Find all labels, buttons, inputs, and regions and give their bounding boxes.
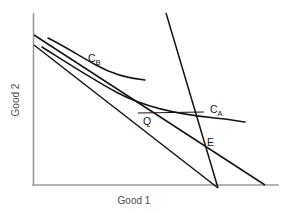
label-point-q: Q xyxy=(143,115,151,127)
figure-root: CB CA Q E Good 1 Good 2 xyxy=(0,0,288,213)
label-point-e: E xyxy=(207,136,214,148)
budget-line-second xyxy=(34,45,218,188)
indifference-curve-diagram: CB CA Q E Good 1 Good 2 xyxy=(0,0,288,213)
y-axis-label: Good 2 xyxy=(10,83,21,116)
horizontal-connector-line xyxy=(138,112,204,113)
lines-group xyxy=(34,13,265,188)
axes-group xyxy=(33,14,278,186)
label-point-ca: CA xyxy=(210,103,223,118)
axis-titles-group: Good 1 Good 2 xyxy=(10,83,151,206)
price-line-steep xyxy=(166,13,218,188)
budget-line-flat xyxy=(34,35,265,185)
x-axis-label: Good 1 xyxy=(118,195,151,206)
